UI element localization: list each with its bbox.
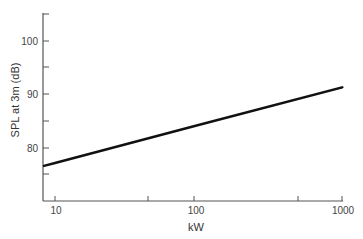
chart: 100 90 80 10 100 1000 kW SPL at 3m (dB) <box>0 0 363 239</box>
x-tick-label-10: 10 <box>50 205 62 216</box>
y-tick-label-80: 80 <box>27 143 39 154</box>
y-ticks <box>43 14 49 174</box>
spl-line <box>43 87 343 167</box>
y-tick-label-90: 90 <box>27 89 39 100</box>
x-axis-label: kW <box>188 221 205 233</box>
y-axis-label: SPL at 3m (dB) <box>9 63 21 138</box>
y-tick-label-100: 100 <box>21 36 38 47</box>
x-tick-label-1000: 1000 <box>332 205 355 216</box>
x-ticks <box>55 196 342 201</box>
x-tick-label-100: 100 <box>188 205 205 216</box>
